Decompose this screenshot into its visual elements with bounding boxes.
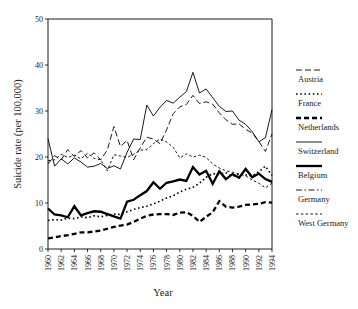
- x-axis-title: Year: [153, 287, 173, 298]
- x-tick-label: 1992: [255, 255, 264, 271]
- y-axis-title: Suicide rate (per 100,000): [12, 79, 24, 189]
- y-tick-label: 0: [39, 245, 43, 254]
- y-tick-label: 40: [35, 61, 43, 70]
- x-tick-label: 1980: [176, 255, 185, 271]
- y-tick-label: 50: [35, 15, 43, 24]
- x-tick-label: 1976: [149, 255, 158, 271]
- y-axis-ticks: 01020304050: [35, 15, 48, 254]
- series-line-switzerland: [48, 72, 272, 169]
- x-tick-label: 1988: [228, 255, 237, 271]
- chart-legend: AustriaFranceNetherlandsSwitzerlandBelgi…: [296, 70, 349, 228]
- series-line-france: [48, 166, 272, 220]
- x-tick-label: 1962: [57, 255, 66, 271]
- x-tick-label: 1960: [44, 255, 53, 271]
- x-tick-label: 1990: [242, 255, 251, 271]
- legend-label-france: France: [298, 98, 321, 108]
- x-tick-label: 1986: [215, 255, 224, 271]
- x-tick-label: 1968: [97, 255, 106, 271]
- x-tick-label: 1970: [110, 255, 119, 271]
- legend-label-switzerland: Switzerland: [298, 146, 339, 156]
- y-tick-label: 10: [35, 199, 43, 208]
- suicide-rate-line-chart: 01020304050 1960196219641966196819701972…: [0, 0, 358, 309]
- x-tick-label: 1966: [84, 255, 93, 271]
- x-tick-label: 1978: [163, 255, 172, 271]
- y-tick-label: 20: [35, 153, 43, 162]
- legend-label-netherlands: Netherlands: [298, 122, 339, 132]
- series-line-west-germany: [48, 139, 272, 188]
- chart-figure: 01020304050 1960196219641966196819701972…: [0, 0, 358, 309]
- legend-label-germany: Germany: [298, 194, 330, 204]
- x-tick-label: 1964: [70, 255, 79, 271]
- x-tick-label: 1974: [136, 255, 145, 271]
- series-line-netherlands: [48, 201, 272, 238]
- legend-label-west-germany: West Germany: [298, 218, 349, 228]
- x-axis-ticks: 1960196219641966196819701972197419761978…: [44, 249, 277, 271]
- y-tick-label: 30: [35, 107, 43, 116]
- x-tick-label: 1972: [123, 255, 132, 271]
- data-series-group: [48, 72, 272, 238]
- series-line-austria: [48, 95, 272, 164]
- x-tick-label: 1982: [189, 255, 198, 271]
- x-tick-label: 1994: [268, 255, 277, 271]
- legend-label-belgium: Belgium: [298, 170, 328, 180]
- legend-label-austria: Austria: [298, 74, 323, 84]
- x-tick-label: 1984: [202, 255, 211, 271]
